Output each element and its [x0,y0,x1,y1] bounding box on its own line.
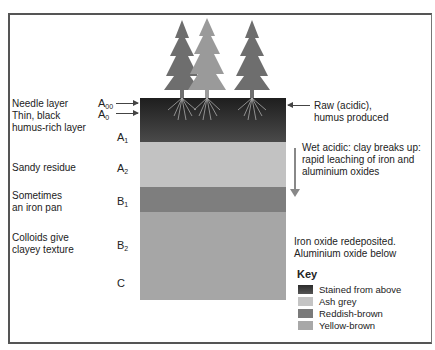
label-iron-oxide-redeposited: Iron oxide redeposited. [294,236,396,248]
label-clayey: clayey texture [12,244,74,256]
soil-layer-reddish-brown [140,187,286,212]
tree-icon [234,20,270,100]
label-rapid-leaching: rapid leaching of iron and [302,154,414,166]
horizon-b2: B2 [117,239,128,255]
label-aluminium-oxides: aluminium oxides [302,166,379,178]
horizon-a2: A2 [117,162,128,178]
soil-layer-yellow-brown [140,212,286,300]
arrow-raw-humus [288,105,310,106]
leaching-down-arrow [294,148,296,190]
swatch-yellow-brown [298,321,313,330]
label-humus-produced: humus produced [314,112,389,124]
label-iron-pan: an iron pan [12,202,62,214]
label-thin-black: Thin, black [12,110,60,122]
horizon-a1: A1 [117,131,128,147]
horizon-a0: A0 [98,108,109,124]
label-colloids: Colloids give [12,232,69,244]
arrow-a00 [116,103,138,104]
label-needle-layer: Needle layer [12,98,68,110]
label-humus-rich: humus-rich layer [12,122,86,134]
label-aluminium-below: Aluminium oxide below [294,248,396,260]
roots-illustration [140,98,286,128]
horizon-b1: B1 [117,195,128,211]
arrow-a0 [116,113,138,114]
key-title: Key [297,268,317,280]
swatch-ash-grey [298,297,313,306]
swatch-stained [298,285,313,294]
label-sandy-residue: Sandy residue [12,162,76,174]
label-sometimes: Sometimes [12,190,62,202]
conifer-trees-illustration [140,18,286,102]
horizon-c: C [117,277,125,289]
soil-layer-ash-grey [140,142,286,187]
label-raw-acidic: Raw (acidic), [314,100,372,112]
label-wet-acidic: Wet acidic: clay breaks up: [302,142,421,154]
swatch-reddish-brown [298,309,313,318]
tree-icon [188,18,226,100]
